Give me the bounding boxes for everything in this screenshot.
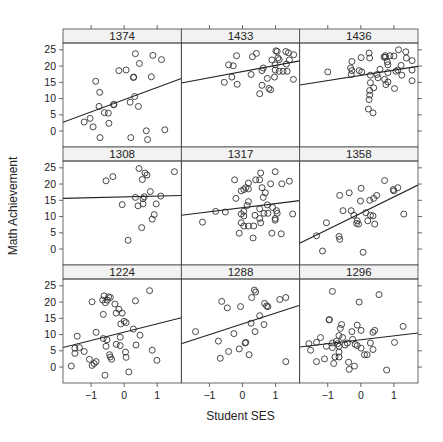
data-point bbox=[249, 54, 255, 60]
data-point bbox=[370, 110, 376, 116]
chart-canvas: 137414331436130813171358122412881296 −10… bbox=[0, 0, 443, 442]
y-tick-label: 25 bbox=[44, 161, 56, 173]
data-point bbox=[358, 327, 364, 333]
data-point bbox=[265, 210, 271, 216]
data-point bbox=[236, 346, 242, 352]
data-point bbox=[291, 52, 297, 58]
y-axis-title: Math Achievement bbox=[6, 156, 20, 255]
y-tick-label: 10 bbox=[44, 328, 56, 340]
data-point bbox=[346, 366, 352, 372]
panel-plot-area bbox=[300, 279, 418, 383]
data-point bbox=[325, 69, 331, 75]
data-point bbox=[290, 211, 296, 217]
data-point bbox=[322, 356, 328, 362]
data-point bbox=[358, 198, 364, 204]
data-point bbox=[409, 58, 415, 64]
panel-marks bbox=[300, 288, 418, 373]
panel-marks bbox=[300, 178, 418, 256]
data-point bbox=[123, 67, 129, 73]
data-point bbox=[117, 334, 123, 340]
data-point bbox=[90, 124, 96, 130]
data-point bbox=[221, 79, 227, 85]
y-tick-label: 15 bbox=[44, 312, 56, 324]
data-point bbox=[257, 216, 263, 222]
y-tick-label: 15 bbox=[44, 194, 56, 206]
data-point bbox=[253, 289, 259, 295]
data-point bbox=[102, 372, 108, 378]
data-point bbox=[229, 74, 235, 80]
x-tick-label: 0 bbox=[121, 389, 127, 401]
data-point bbox=[193, 329, 199, 335]
data-point bbox=[278, 231, 284, 237]
data-point bbox=[135, 103, 141, 109]
data-point bbox=[259, 82, 265, 88]
data-point bbox=[87, 115, 93, 121]
data-point bbox=[131, 74, 137, 80]
y-tick-label: 20 bbox=[44, 60, 56, 72]
data-point bbox=[104, 337, 110, 343]
panel-1436: 1436 bbox=[300, 29, 418, 147]
data-point bbox=[171, 169, 177, 175]
data-point bbox=[261, 322, 267, 328]
data-point bbox=[246, 352, 252, 358]
panels-layer: 137414331436130813171358122412881296 bbox=[63, 29, 418, 383]
panel-strip-label: 1224 bbox=[109, 266, 135, 278]
data-point bbox=[226, 349, 232, 355]
data-point bbox=[258, 170, 264, 176]
data-point bbox=[143, 128, 149, 134]
data-point bbox=[132, 51, 138, 57]
panel-1296: 1296 bbox=[300, 265, 418, 383]
panel-strip-label: 1317 bbox=[228, 148, 254, 160]
data-point bbox=[376, 292, 382, 298]
data-point bbox=[323, 220, 329, 226]
data-point bbox=[126, 369, 132, 375]
data-point bbox=[360, 249, 366, 255]
data-point bbox=[269, 230, 275, 236]
panel-marks bbox=[63, 51, 181, 143]
panel-1308: 1308 bbox=[63, 147, 181, 265]
data-point bbox=[399, 72, 405, 78]
x-tick-label: −1 bbox=[85, 389, 97, 401]
data-point bbox=[93, 78, 99, 84]
data-point bbox=[234, 53, 240, 59]
regression-line bbox=[181, 201, 299, 216]
data-point bbox=[217, 355, 223, 361]
data-point bbox=[279, 181, 285, 187]
data-point bbox=[349, 59, 355, 65]
axes-layer: −101−101−1010510152025051015202505101520… bbox=[44, 25, 422, 401]
y-tick-label: 15 bbox=[44, 76, 56, 88]
y-tick-label: 20 bbox=[44, 296, 56, 308]
data-point bbox=[97, 89, 103, 95]
regression-line bbox=[63, 78, 181, 122]
panel-marks bbox=[63, 166, 181, 244]
data-point bbox=[236, 230, 242, 236]
data-point bbox=[272, 74, 278, 80]
data-point bbox=[103, 178, 109, 184]
data-point bbox=[253, 50, 259, 56]
regression-line bbox=[300, 185, 418, 243]
panel-marks bbox=[181, 287, 299, 365]
data-point bbox=[392, 86, 398, 92]
data-point bbox=[149, 347, 155, 353]
data-point bbox=[233, 195, 239, 201]
y-tick-label: 0 bbox=[50, 243, 56, 255]
panel-marks bbox=[181, 48, 299, 97]
panel-plot-area bbox=[63, 279, 181, 383]
data-point bbox=[314, 359, 320, 365]
data-point bbox=[231, 331, 237, 337]
y-tick-label: 0 bbox=[50, 361, 56, 373]
data-point bbox=[340, 335, 346, 341]
data-point bbox=[137, 332, 143, 338]
data-point bbox=[326, 317, 332, 323]
data-point bbox=[81, 119, 87, 125]
data-point bbox=[125, 237, 131, 243]
y-tick-label: 25 bbox=[44, 43, 56, 55]
data-point bbox=[358, 185, 364, 191]
data-point bbox=[268, 87, 274, 93]
x-tick-label: 1 bbox=[154, 389, 160, 401]
regression-line bbox=[300, 66, 418, 85]
data-point bbox=[245, 199, 251, 205]
data-point bbox=[136, 166, 142, 172]
panel-strip-label: 1374 bbox=[109, 30, 135, 42]
data-point bbox=[329, 288, 335, 294]
